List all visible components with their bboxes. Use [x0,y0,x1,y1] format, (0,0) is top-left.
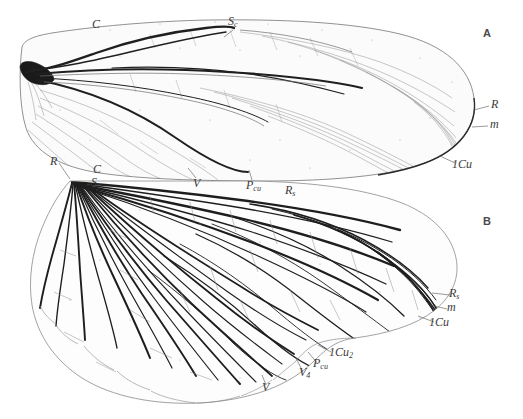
panel-a-letter: A [483,28,491,39]
leader-a-r [474,106,489,110]
label-a-v: V [193,177,200,189]
label-a-m-text: m [490,117,499,131]
label-a-c-text: C [92,17,100,31]
label-a-pcu: Pcu [246,179,261,191]
panel-b-letter: B [483,216,491,227]
label-b-c: C [93,163,101,175]
label-b-m: m [447,301,456,313]
label-b-pcu: Pcu [313,357,328,369]
label-b-v-text: V [262,380,269,394]
label-b-sc-subscript: c [97,181,101,190]
label-b-r: R [50,155,57,167]
label-b-rs: Rs [285,184,295,196]
label-b-1cu-text: 1Cu [429,315,449,329]
label-b-v: V [262,381,269,393]
label-b-m-text: m [447,300,456,314]
label-a-r-text: R [491,97,498,111]
label-a-1cu: 1Cu [452,158,472,170]
figure-plate: CScRm1CuPcuVRCScRsRsm1Cu1Cu2PcuV4V A B [0,0,523,419]
label-b-sc: Sc [91,176,101,188]
label-a-c: C [92,18,100,30]
label-a-pcu-subscript: cu [253,184,261,193]
label-a-r: R [491,98,498,110]
wing-drawing [0,0,523,419]
label-a-sc-subscript: c [234,20,238,29]
label-b-1cu2: 1Cu2 [329,346,353,358]
label-b-1cu2-subscript: 2 [349,351,353,360]
leader-a-m [472,126,488,127]
panel-a-forewing [20,20,475,181]
label-a-sc: Sc [228,15,238,27]
label-b-pcu-subscript: cu [320,362,328,371]
label-a-1cu-text: 1Cu [452,157,472,171]
label-a-v-text: V [193,176,200,190]
label-b-1cu2-text: 1Cu [329,345,349,359]
label-b-r-text: R [50,154,57,168]
label-a-m: m [490,118,499,130]
forewing-membrane [20,20,474,181]
label-b-rs2: Rs [449,287,459,299]
panel-b-hindwing [30,181,457,403]
label-b-c-text: C [93,162,101,176]
label-b-1cu: 1Cu [429,316,449,328]
label-b-v4: V4 [299,366,310,378]
label-b-v4-subscript: 4 [306,371,310,380]
